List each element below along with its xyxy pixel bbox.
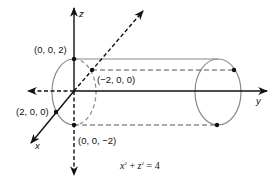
cylinder-diagram: z y x (0, 0, 2) (−2, 0, 0) (2, 0, 0) (0,… xyxy=(0,0,279,185)
point-right-back xyxy=(232,68,236,72)
eq-exp-1: 2 xyxy=(124,161,127,166)
point-back xyxy=(90,68,94,72)
eq-equals: = xyxy=(147,160,153,171)
point-bottom xyxy=(72,123,76,127)
eq-plus: + xyxy=(129,160,135,171)
eq-exp-2: 2 xyxy=(142,161,145,166)
label-point-front: (2, 0, 0) xyxy=(16,107,49,117)
point-right-bottom xyxy=(215,123,219,127)
eq-rhs: 4 xyxy=(155,160,160,171)
point-front xyxy=(54,110,58,114)
x-axis-label: x xyxy=(35,141,40,151)
label-point-bottom: (0, 0, −2) xyxy=(78,136,116,146)
y-axis-label: y xyxy=(256,96,261,106)
label-point-top: (0, 0, 2) xyxy=(34,45,67,55)
point-top xyxy=(72,57,76,61)
diagram-canvas xyxy=(0,0,279,185)
z-axis-label: z xyxy=(79,9,84,19)
label-point-back: (−2, 0, 0) xyxy=(97,75,135,85)
cylinder-equation: x2 + z2 = 4 xyxy=(120,160,160,171)
